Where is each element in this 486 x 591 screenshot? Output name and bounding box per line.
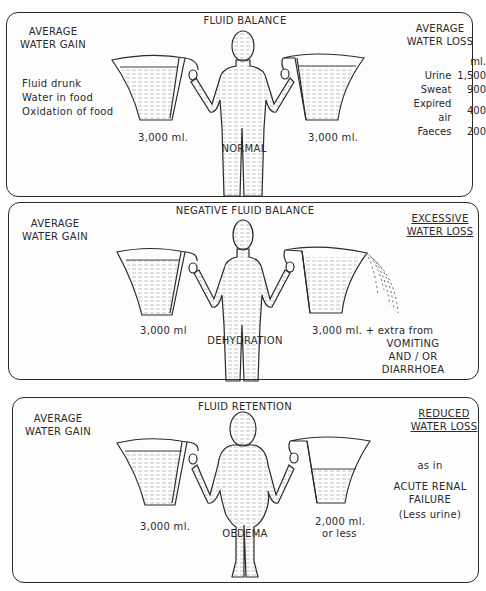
illustration-dehydration — [0, 195, 486, 395]
jug-icon-loss — [289, 437, 370, 503]
jug-icon-loss — [284, 247, 367, 313]
person-figure-normal — [191, 31, 294, 196]
jug-icon-gain — [112, 55, 198, 120]
jug-icon-loss — [281, 54, 364, 120]
person-figure-dehydration — [194, 220, 290, 381]
illustration-oedema — [0, 385, 486, 585]
jug-icon-gain — [117, 249, 197, 316]
person-figure-oedema — [192, 412, 294, 577]
water-spill-icon — [366, 253, 398, 313]
jug-icon-gain — [117, 439, 198, 505]
illustration-normal — [0, 0, 486, 200]
